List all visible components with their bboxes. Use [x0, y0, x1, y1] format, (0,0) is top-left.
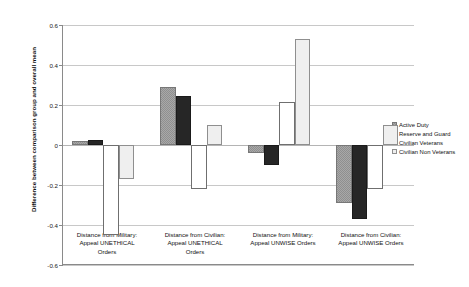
y-tick-label: 0.2: [49, 102, 63, 109]
bar: [352, 145, 368, 219]
bar: [295, 39, 311, 145]
bar: [367, 145, 383, 189]
bar: [264, 145, 280, 165]
bar: [248, 145, 264, 153]
bar-group: [63, 25, 151, 264]
x-category-label-line: Distance from Military:: [233, 231, 333, 239]
y-tick-label: 0.4: [49, 62, 63, 69]
chart-legend: Active Duty Reserve and Guard Civilian V…: [392, 120, 455, 156]
x-category-label-line: Orders: [57, 248, 157, 256]
gridline: [63, 265, 414, 266]
bar: [176, 96, 192, 145]
bar: [336, 145, 352, 203]
bar-chart-figure: Difference between comparison group and …: [0, 0, 469, 287]
y-tick-label: 0.6: [49, 22, 63, 29]
y-tick-label: -0.2: [47, 182, 63, 189]
bar-group: [239, 25, 327, 264]
x-category-label-line: Distance from Civilian:: [145, 231, 245, 239]
legend-item: Civilian Veterans: [392, 138, 455, 147]
legend-label: Reserve and Guard: [399, 131, 450, 137]
bar: [191, 145, 207, 189]
y-tick-label: 0: [55, 142, 63, 149]
legend-item: Civilian Non Veterans: [392, 147, 455, 156]
bar: [383, 125, 399, 145]
legend-swatch-civilian-non-veterans: [392, 149, 397, 154]
legend-label: Civilian Non Veterans: [399, 149, 455, 155]
y-axis-title: Difference between comparison group and …: [30, 5, 37, 255]
legend-label: Active Duty: [399, 122, 429, 128]
x-category-label-line: Appeal UNETHICAL: [145, 239, 245, 247]
y-tick-label: -0.4: [47, 222, 63, 229]
x-category-label: Distance from Civilian:Appeal UNWISE Ord…: [321, 231, 421, 248]
x-category-label: Distance from Military:Appeal UNWISE Ord…: [233, 231, 333, 248]
legend-label: Civilian Veterans: [399, 140, 443, 146]
y-tick-label: -0.6: [47, 262, 63, 269]
x-category-label: Distance from Civilian:Appeal UNETHICALO…: [145, 231, 245, 256]
x-category-label-line: Appeal UNETHICAL: [57, 239, 157, 247]
bar: [160, 87, 176, 145]
bar: [207, 125, 223, 145]
bar-group: [151, 25, 239, 264]
bar: [279, 102, 295, 145]
x-category-label-line: Distance from Civilian:: [321, 231, 421, 239]
x-category-label-line: Appeal UNWISE Orders: [321, 239, 421, 247]
x-category-label-line: Appeal UNWISE Orders: [233, 239, 333, 247]
bar: [103, 145, 119, 235]
bar: [119, 145, 135, 179]
bar: [88, 140, 104, 145]
bar: [72, 141, 88, 145]
legend-item: Active Duty: [392, 120, 455, 129]
legend-item: Reserve and Guard: [392, 129, 455, 138]
x-category-label-line: Orders: [145, 248, 245, 256]
plot-area: 0.60.40.20-0.2-0.4-0.6Distance from Mili…: [62, 25, 414, 265]
